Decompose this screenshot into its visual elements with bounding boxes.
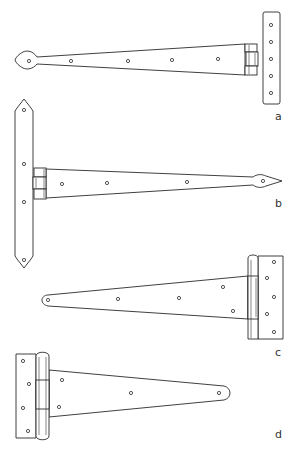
label-c: c [275, 347, 281, 358]
hinge-c-leaf [258, 256, 283, 339]
hinge-c-pin [248, 255, 258, 339]
hinge-c [42, 255, 283, 339]
hinge-d-leaf [16, 354, 36, 438]
hinge-d-pin [36, 352, 49, 440]
hinge-a-knuckles [245, 44, 258, 75]
hinge-b-knuckles [33, 168, 46, 199]
label-d: d [275, 429, 282, 440]
label-b: b [275, 198, 282, 209]
hinge-a-strap [15, 44, 245, 75]
hinge-d-strap [49, 370, 230, 417]
hinge-a [15, 12, 280, 104]
hinge-c-strap [42, 276, 248, 319]
hinge-diagram [0, 0, 296, 454]
hinge-b-leaf [15, 99, 33, 268]
hinge-b-strap [46, 169, 282, 198]
hinge-b [15, 99, 282, 268]
label-a: a [275, 111, 282, 122]
hinge-d [16, 352, 230, 440]
